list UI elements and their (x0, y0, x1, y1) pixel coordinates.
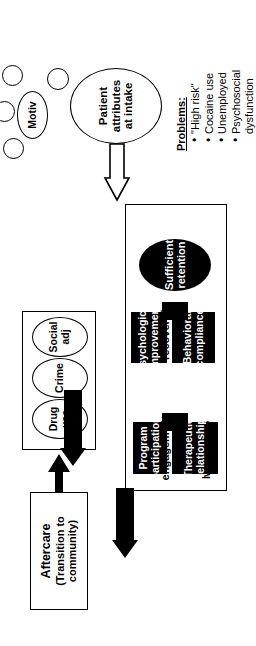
node-patient-attributes-at-intake: Patient attributes at intake (70, 68, 162, 144)
node-label-line2: improvement (149, 302, 161, 373)
problems-list-item: Cocaine use (203, 21, 216, 142)
problems-heading: Problems: (175, 21, 188, 151)
aftercare-subtitle-line2: community) (66, 516, 79, 586)
unlabeled-circle (47, 68, 69, 90)
outcome-node-label: Social adj (48, 318, 71, 356)
node-motivation: Motiv (17, 91, 48, 139)
unlabeled-circle (2, 65, 23, 86)
connector-engagement-pair (160, 413, 190, 431)
outcome-node-social-adj: Social adj (32, 317, 88, 357)
unlabeled-circle (3, 138, 24, 159)
node-label-line3: at intake (122, 80, 135, 132)
node-label-line1: Patient (97, 80, 110, 132)
unlabeled-circle (0, 101, 15, 122)
problems-list-item: Psychosocial dysfunction (230, 21, 240, 142)
problems-list: "High risk" Cocaine use Unemployed Psych… (189, 21, 240, 151)
node-label-line1: Sufficient (163, 240, 175, 290)
node-label-line2: relationship (195, 418, 207, 478)
node-label-line2: retention (175, 240, 187, 290)
aftercare-box: Aftercare (Transition to community) (30, 492, 88, 610)
problems-block: Problems: "High risk" Cocaine use Unempl… (175, 21, 240, 151)
aftercare-title: Aftercare (39, 524, 54, 579)
arrow-treatment-to-aftercare (112, 488, 138, 558)
diagram-canvas: Aftercare (Transition to community) Drug… (0, 0, 240, 646)
arrow-retention-to-outcomes (60, 390, 86, 466)
outcome-node-label: Crime (54, 363, 66, 393)
node-label: Motiv (27, 101, 39, 128)
connector-recovery-pair (160, 302, 190, 320)
node-label-line2: compliance (194, 309, 206, 367)
aftercare-subtitle-line1: (Transition to (54, 516, 67, 586)
node-label-line2: attributes (110, 80, 123, 132)
problems-list-item: Unemployed (216, 21, 229, 142)
arrow-intake-to-treatment-hollow (104, 142, 130, 202)
aftercare-subtitle: (Transition to community) (54, 516, 80, 586)
node-sufficient-retention: Sufficient retention (139, 239, 211, 291)
problems-list-item: "High risk" (189, 21, 202, 142)
